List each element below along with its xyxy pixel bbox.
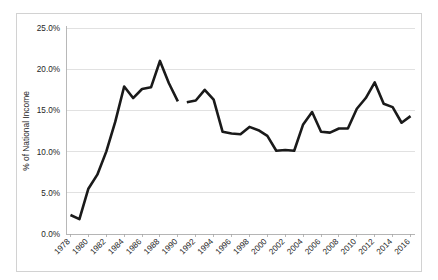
xtick-label-2014: 2014 [375,237,395,257]
xtick-label-1986: 1986 [124,237,144,257]
ytick-label-5.0%: 5.0% [41,189,60,198]
ytick-label-10.0%: 10.0% [37,148,60,157]
ytick-label-20.0%: 20.0% [37,65,60,74]
chart-figure: 0.0%5.0%10.0%15.0%20.0%25.0%197819801982… [16,13,422,272]
xtick-label-1994: 1994 [196,237,216,257]
xtick-label-2002: 2002 [267,237,287,257]
xtick-label-2012: 2012 [357,237,377,257]
ytick-label-15.0%: 15.0% [37,106,60,115]
xtick-label-2004: 2004 [285,237,305,257]
xtick-label-1984: 1984 [106,237,126,257]
xtick-label-1988: 1988 [142,237,162,257]
xtick-label-1992: 1992 [178,237,198,257]
xtick-label-1990: 1990 [160,237,180,257]
xtick-label-1998: 1998 [232,237,252,257]
ytick-label-25.0%: 25.0% [37,24,60,33]
xtick-label-2006: 2006 [303,237,323,257]
xtick-label-1980: 1980 [71,237,91,257]
xtick-label-2010: 2010 [339,237,359,257]
data-series-line-0 [70,61,177,219]
xtick-label-2016: 2016 [393,237,413,257]
xtick-label-1996: 1996 [214,237,234,257]
xtick-label-2000: 2000 [250,237,270,257]
ytick-label-0.0%: 0.0% [41,230,60,239]
xtick-label-2008: 2008 [321,237,341,257]
y-axis-title: % of National Income [21,91,31,171]
line-chart-svg: 0.0%5.0%10.0%15.0%20.0%25.0%197819801982… [17,14,421,271]
xtick-label-1982: 1982 [88,237,108,257]
data-series-line-1 [187,82,411,150]
xtick-label-1978: 1978 [53,237,73,257]
